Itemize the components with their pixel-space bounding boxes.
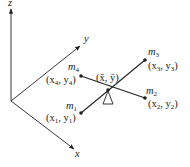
mass-m1: m1 (x1, y1) (46, 100, 83, 125)
coord-label: (x2, y2) (148, 98, 178, 111)
mass-label: m2 (146, 85, 158, 98)
z-axis-label: z (7, 0, 12, 8)
mass-label: m4 (68, 61, 80, 74)
center-of-mass-diagram: z y x (x̄, ȳ) m1 (x1, y1) m2 (x2, y2) m3… (0, 0, 190, 167)
mass-point (79, 74, 83, 78)
mass-m4: m4 (x4, y4) (46, 61, 83, 87)
rods (81, 60, 145, 113)
mass-m2: m2 (x2, y2) (143, 85, 178, 111)
coord-label: (x3, y3) (148, 60, 178, 73)
mass-label: m3 (148, 46, 160, 59)
center-label: (x̄, ȳ) (96, 72, 119, 84)
coord-label: (x4, y4) (46, 74, 76, 87)
coord-label: (x1, y1) (46, 112, 76, 125)
mass-point (143, 96, 147, 100)
mass-point (79, 111, 83, 115)
center-of-mass-point (106, 88, 110, 92)
x-axis (11, 101, 74, 149)
mass-point (143, 58, 147, 62)
y-axis-label: y (83, 33, 89, 44)
mass-m3: m3 (x3, y3) (143, 46, 178, 73)
x-axis-label: x (74, 148, 80, 159)
